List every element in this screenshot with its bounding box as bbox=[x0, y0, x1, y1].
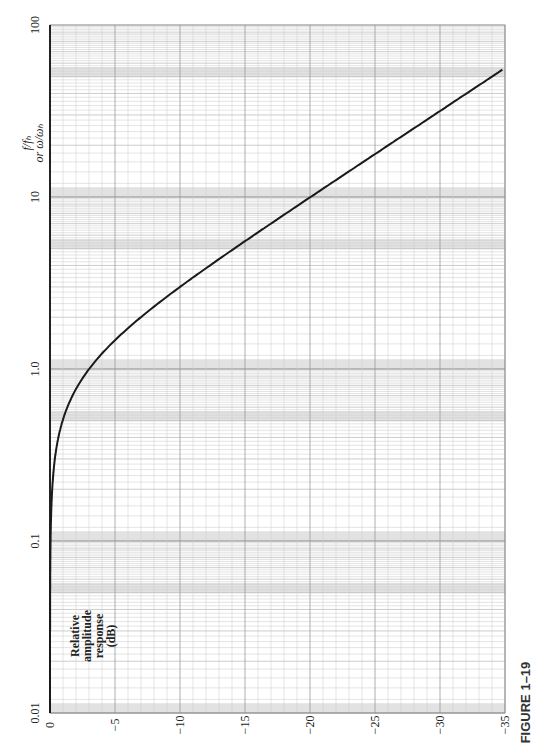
decade-shading bbox=[50, 67, 505, 713]
frequency-tick-label: 0.01 bbox=[28, 696, 42, 730]
frequency-axis-label-line2: or ω/ωₕ bbox=[33, 113, 45, 173]
db-axis-label: Relative amplitude response (dB) bbox=[69, 591, 117, 681]
db-tick-label: −35 bbox=[498, 710, 512, 740]
frequency-tick-label: 10 bbox=[28, 180, 42, 214]
db-tick-label: −20 bbox=[303, 710, 317, 740]
db-tick-label: −5 bbox=[108, 710, 122, 740]
db-tick-label: −25 bbox=[368, 710, 382, 740]
db-tick-label: −30 bbox=[433, 710, 447, 740]
grid-lines bbox=[50, 25, 505, 713]
frequency-tick-label: 1.0 bbox=[28, 352, 42, 386]
frequency-axis-label: f/fₕ or ω/ωₕ bbox=[21, 113, 51, 173]
frequency-tick-label: 100 bbox=[28, 8, 42, 42]
db-tick-label: 0 bbox=[43, 710, 57, 740]
db-tick-label: −15 bbox=[238, 710, 252, 740]
db-tick-label: −10 bbox=[173, 710, 187, 740]
figure-caption: FIGURE 1–19 bbox=[518, 648, 533, 748]
frequency-tick-label: 0.1 bbox=[28, 524, 42, 558]
db-label-line4: (dB) bbox=[105, 591, 117, 681]
